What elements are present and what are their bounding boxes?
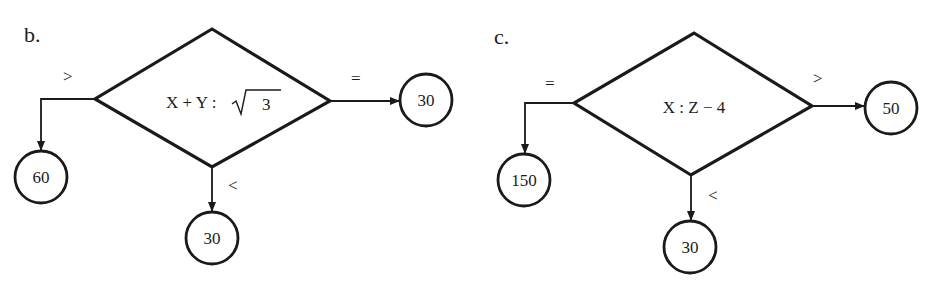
terminal-value-b-bottom: 30 [204,229,221,248]
condition-b-radicand: 3 [262,95,271,114]
panel-b-label: b. [24,22,41,47]
terminal-value-c-bottom: 30 [682,238,699,257]
terminal-value-c-right: 50 [883,99,900,118]
operator-c-right: > [813,69,823,88]
edge-c-left [525,103,574,153]
operator-b-bottom: < [228,176,238,195]
panel-c-label: c. [494,24,509,49]
operator-b-right: = [351,69,361,88]
operator-c-left: = [545,74,555,93]
operator-c-bottom: < [708,186,718,205]
operator-b-left: > [63,67,73,86]
flowchart-canvas: b. X + Y : 3 > 60 = 30 < 30 c. X : Z − 4 [0,0,935,286]
terminal-value-b-right: 30 [418,91,435,110]
edge-b-left [41,99,95,150]
condition-b-left: X + Y : [166,93,216,112]
panel-b: b. X + Y : 3 > 60 = 30 < 30 [15,22,452,264]
terminal-value-b-left: 60 [33,168,50,187]
panel-c: c. X : Z − 4 = 150 > 50 < 30 [494,24,917,273]
terminal-value-c-left: 150 [511,171,537,190]
condition-c: X : Z − 4 [663,98,726,117]
